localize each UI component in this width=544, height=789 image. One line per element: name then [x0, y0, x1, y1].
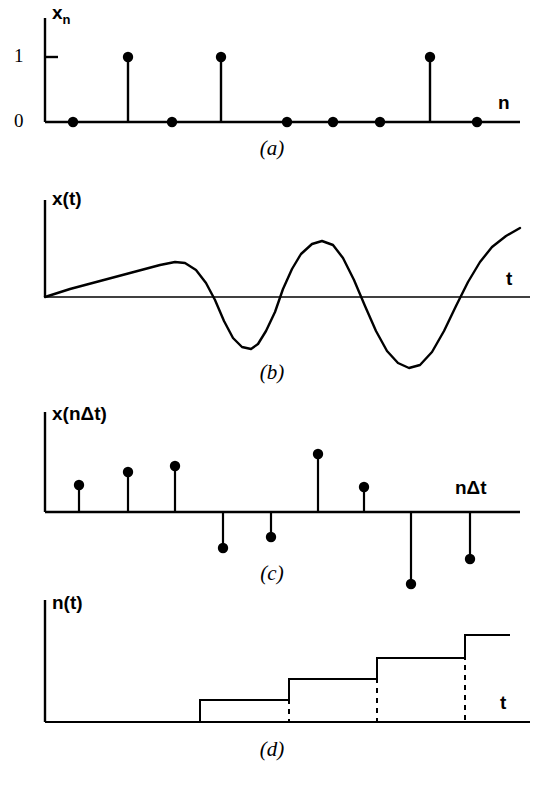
stem-dot — [123, 52, 133, 62]
panel-a-stems — [68, 52, 482, 127]
panel-b — [45, 200, 530, 368]
stem-dot — [167, 117, 177, 127]
stem-dot — [406, 579, 416, 589]
panel-a-ytick-label-1: 1 — [14, 45, 24, 67]
stem-dot — [170, 461, 180, 471]
stem-dot — [425, 52, 435, 62]
panel-a-ylabel-subscript: n — [63, 12, 71, 27]
panel-d-caption: (d) — [242, 737, 302, 762]
panel-b-caption: (b) — [242, 360, 302, 385]
panel-a-xlabel: n — [498, 92, 510, 114]
stem-dot — [74, 480, 84, 490]
panel-d-xlabel: t — [500, 692, 506, 714]
stem-dot — [218, 543, 228, 553]
stem-dot — [359, 482, 369, 492]
panel-c-xlabel: nΔt — [455, 477, 487, 499]
stem-dot — [123, 467, 133, 477]
stem-dot — [375, 117, 385, 127]
stem-dot — [216, 52, 226, 62]
figure-four-panel-signal-diagram — [0, 0, 544, 789]
stem-dot — [282, 117, 292, 127]
panel-c-caption: (c) — [242, 561, 302, 586]
panel-d-ylabel: n(t) — [52, 592, 83, 614]
panel-b-xlabel: t — [506, 268, 512, 290]
stem-dot — [68, 117, 78, 127]
stem-dot — [328, 117, 338, 127]
panel-c-ylabel: x(nΔt) — [52, 403, 107, 425]
panel-a — [45, 18, 520, 127]
panel-a-caption: (a) — [242, 136, 302, 161]
panel-d — [45, 600, 530, 722]
stem-dot — [472, 117, 482, 127]
panel-d-staircase — [45, 635, 510, 722]
stem-dot — [313, 449, 323, 459]
panel-b-ylabel: x(t) — [52, 188, 82, 210]
stem-dot — [465, 554, 475, 564]
panel-a-ylabel: xn — [52, 2, 71, 27]
panel-b-waveform — [45, 228, 520, 368]
stem-dot — [266, 532, 276, 542]
panel-a-ytick-label-0: 0 — [14, 110, 24, 132]
